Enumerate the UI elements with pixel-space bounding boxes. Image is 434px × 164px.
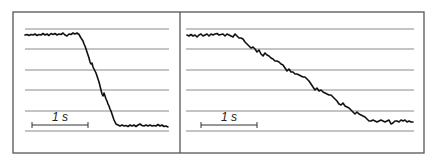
left-scale-bar: 1 s bbox=[32, 110, 88, 128]
figure: 1 s 1 s bbox=[0, 0, 434, 164]
left-panel: 1 s bbox=[25, 29, 169, 131]
left-trace bbox=[25, 33, 168, 127]
left-gridlines bbox=[25, 29, 169, 131]
right-panel: 1 s bbox=[186, 29, 414, 131]
left-scale-label: 1 s bbox=[52, 110, 68, 124]
right-scale-label: 1 s bbox=[221, 110, 237, 124]
right-scale-bar: 1 s bbox=[201, 110, 257, 128]
